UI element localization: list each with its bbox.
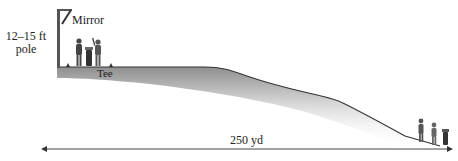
golf-bag-icon bbox=[442, 129, 449, 145]
tee-marker-icon bbox=[66, 63, 70, 67]
terrain-illustration bbox=[0, 0, 458, 161]
mirror-icon bbox=[62, 10, 71, 24]
pole-label: 12–15 ft pole bbox=[2, 30, 50, 56]
golf-hole-diagram: 12–15 ft pole Mirror Tee 250 yd bbox=[0, 0, 458, 161]
pole bbox=[57, 9, 60, 68]
golfer-icon bbox=[419, 119, 424, 142]
golfer-icon bbox=[76, 38, 82, 66]
distance-label: 250 yd bbox=[230, 134, 263, 147]
mirror-label: Mirror bbox=[72, 14, 104, 27]
arrow-left-icon bbox=[41, 146, 47, 152]
golf-bag-icon bbox=[85, 47, 93, 66]
pole-text: pole bbox=[2, 43, 50, 56]
golfer-icon bbox=[92, 38, 101, 66]
golfer-icon bbox=[432, 123, 437, 145]
arrow-right-icon bbox=[447, 146, 453, 152]
tee-label: Tee bbox=[97, 67, 113, 80]
